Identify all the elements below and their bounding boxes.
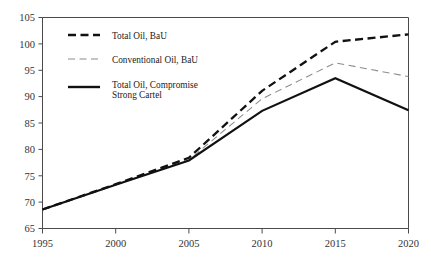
y-tick-label-75: 75	[25, 171, 36, 182]
x-tick-label-2000: 2000	[105, 238, 126, 249]
y-axis-ticks	[39, 18, 43, 229]
x-tick-label-1995: 1995	[32, 238, 53, 249]
chart-legend: Total Oil, BaU Conventional Oil, BaU Tot…	[68, 31, 198, 100]
legend-label-total-oil-compromise: Total Oil, Compromise	[112, 80, 198, 90]
x-tick-label-2005: 2005	[178, 238, 199, 249]
data-series	[43, 34, 409, 209]
y-tick-label-70: 70	[25, 197, 36, 208]
y-tick-label-90: 90	[25, 91, 36, 102]
y-tick-label-80: 80	[25, 144, 36, 155]
legend-label-total-oil-bau: Total Oil, BaU	[112, 31, 167, 41]
legend-item-total-oil-compromise-strong-cartel: Total Oil, Compromise Strong Cartel	[68, 80, 198, 100]
chart-container: 65 70 75 80 85 90 95 100 105 1995 2000 2…	[0, 0, 431, 269]
legend-item-total-oil-bau: Total Oil, BaU	[68, 31, 167, 41]
x-tick-label-2015: 2015	[325, 238, 346, 249]
y-tick-label-100: 100	[19, 39, 35, 50]
legend-label-strong-cartel: Strong Cartel	[112, 90, 162, 100]
x-tick-label-2010: 2010	[252, 238, 273, 249]
series-total-oil-bau	[43, 34, 409, 209]
y-tick-label-95: 95	[25, 65, 36, 76]
series-total-oil-compromise-strong-cartel	[43, 78, 409, 209]
x-axis-labels: 1995 2000 2005 2010 2015 2020	[32, 238, 419, 249]
legend-label-conventional-oil-bau: Conventional Oil, BaU	[112, 55, 198, 65]
y-axis-labels: 65 70 75 80 85 90 95 100 105	[19, 12, 35, 234]
legend-item-conventional-oil-bau: Conventional Oil, BaU	[68, 55, 198, 65]
line-chart: 65 70 75 80 85 90 95 100 105 1995 2000 2…	[0, 0, 431, 269]
y-tick-label-65: 65	[25, 223, 36, 234]
x-axis-ticks	[43, 229, 409, 234]
y-tick-label-85: 85	[25, 118, 36, 129]
x-tick-label-2020: 2020	[398, 238, 419, 249]
y-tick-label-105: 105	[19, 12, 35, 23]
